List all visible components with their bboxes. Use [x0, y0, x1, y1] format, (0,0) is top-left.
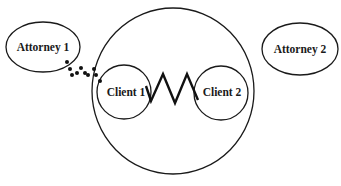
client-1-label: Client 1	[107, 86, 146, 98]
attorney-1-label: Attorney 1	[17, 41, 70, 53]
diagram-canvas: Attorney 1 Attorney 2 Client 1 Client 2	[0, 0, 341, 186]
zigzag-conflict-line	[146, 74, 198, 103]
diagram-shapes	[0, 0, 341, 186]
client-2-label: Client 2	[203, 86, 242, 98]
attorney-2-label: Attorney 2	[274, 43, 327, 55]
